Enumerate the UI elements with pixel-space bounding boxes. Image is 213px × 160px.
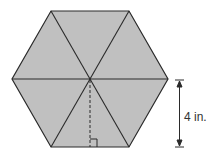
hexagon-diagram: 4 in. bbox=[0, 0, 213, 160]
height-label: 4 in. bbox=[184, 110, 207, 124]
dimension-arrow bbox=[175, 80, 184, 147]
